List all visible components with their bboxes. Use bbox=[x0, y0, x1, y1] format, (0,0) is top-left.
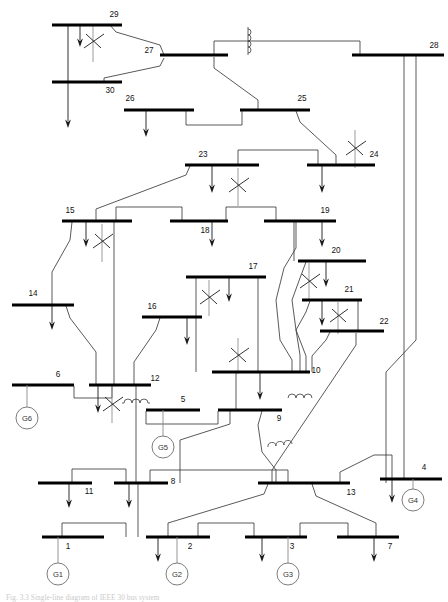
line-25-24 bbox=[296, 111, 336, 165]
transmission-lines bbox=[52, 25, 416, 537]
line-15-18 bbox=[116, 207, 182, 221]
load-arrow-bus-18 bbox=[209, 221, 215, 247]
transformer-29-27 bbox=[84, 26, 104, 62]
load-arrow-bus-29 bbox=[77, 25, 83, 47]
generator-label-G2: G2 bbox=[172, 570, 182, 579]
line-29-27 bbox=[110, 25, 164, 55]
line-15-14 bbox=[52, 222, 72, 305]
bus-label-27: 27 bbox=[144, 46, 154, 55]
transformer-21 bbox=[330, 302, 348, 334]
transformer-23 bbox=[229, 168, 249, 206]
generator-label-G5: G5 bbox=[158, 443, 168, 452]
line-18-19 bbox=[226, 207, 276, 221]
transformer-12 bbox=[103, 387, 123, 423]
transformer-20 bbox=[300, 263, 320, 300]
load-arrow-bus-14 bbox=[49, 305, 55, 330]
generators: G1G2G3G4G5G6 bbox=[16, 385, 424, 585]
bus-label-6: 6 bbox=[56, 370, 61, 379]
load-arrow-bus-30 bbox=[65, 25, 71, 128]
bus-label-29: 29 bbox=[109, 10, 119, 19]
line-14-12 bbox=[66, 306, 96, 385]
line-27-25 bbox=[214, 57, 258, 110]
bus-label-4: 4 bbox=[422, 463, 427, 472]
bus-label-14: 14 bbox=[28, 289, 38, 298]
load-arrow-bus-3 bbox=[259, 537, 265, 562]
bus-label-12: 12 bbox=[150, 374, 160, 383]
transformer-15 bbox=[93, 224, 113, 262]
reactor-10-coil-icon bbox=[288, 394, 312, 398]
bus-label-21: 21 bbox=[344, 285, 354, 294]
bus-label-15: 15 bbox=[65, 206, 75, 215]
load-arrow-bus-17 bbox=[226, 277, 232, 302]
bus-label-3: 3 bbox=[290, 542, 295, 551]
buses bbox=[12, 25, 444, 537]
generator-label-G6: G6 bbox=[22, 414, 32, 423]
bus-label-2: 2 bbox=[188, 542, 193, 551]
load-arrow-bus-11 bbox=[66, 483, 72, 508]
generator-G6[interactable]: G6 bbox=[16, 385, 38, 429]
load-arrow-bus-16 bbox=[184, 317, 190, 345]
figure-caption: Fig. 3.3 Single-line diagram of IEEE 30 … bbox=[6, 594, 160, 602]
line-11-8 bbox=[72, 469, 126, 483]
bus-label-11: 11 bbox=[85, 487, 94, 496]
line-2-3 bbox=[198, 523, 254, 537]
load-arrow-bus-15 bbox=[83, 221, 89, 247]
line-5-7 bbox=[146, 411, 218, 424]
load-arrow-bus-7 bbox=[371, 537, 377, 562]
bus-label-23: 23 bbox=[198, 150, 208, 159]
generator-label-G3: G3 bbox=[283, 570, 293, 579]
transformer-17 bbox=[200, 280, 220, 316]
load-arrow-bus-24 bbox=[319, 165, 325, 193]
bus-label-10: 10 bbox=[311, 366, 321, 375]
line-26-25 bbox=[186, 110, 242, 125]
line-23-24 bbox=[238, 150, 318, 165]
load-arrow-bus-10 bbox=[257, 372, 263, 400]
bus-label-30: 30 bbox=[105, 86, 115, 95]
transformers bbox=[84, 26, 366, 423]
generator-label-G1: G1 bbox=[53, 570, 63, 579]
line-27-28 bbox=[214, 41, 360, 55]
generator-G2[interactable]: G2 bbox=[166, 537, 188, 585]
bus-label-7: 7 bbox=[388, 542, 393, 551]
load-arrow-bus-19 bbox=[319, 221, 325, 247]
line-13-2 bbox=[168, 484, 268, 537]
line-6-12 bbox=[74, 386, 112, 398]
bus-label-16: 16 bbox=[147, 302, 157, 311]
bus-label-8: 8 bbox=[171, 477, 176, 486]
load-arrow-bus-8 bbox=[126, 483, 132, 508]
single-line-diagram: 1234567891011121314151617181920212223242… bbox=[0, 0, 448, 602]
load-arrow-bus-21 bbox=[319, 300, 325, 326]
line-23-15 bbox=[96, 166, 190, 221]
bus-label-22: 22 bbox=[379, 317, 389, 326]
line-22-13 bbox=[272, 333, 356, 483]
load-arrow-bus-26 bbox=[143, 110, 149, 137]
line-3-7 bbox=[300, 523, 348, 537]
generator-G5[interactable]: G5 bbox=[152, 410, 174, 458]
bus-label-5: 5 bbox=[181, 395, 186, 404]
line-27-30 bbox=[104, 58, 164, 82]
bus-label-13: 13 bbox=[346, 488, 356, 497]
diagram-canvas: 1234567891011121314151617181920212223242… bbox=[0, 0, 448, 602]
load-arrow-bus-12 bbox=[95, 385, 101, 413]
load-arrow-bus-20 bbox=[323, 261, 329, 287]
bus-label-28: 28 bbox=[429, 41, 439, 50]
transformer-24 bbox=[346, 130, 366, 168]
bus-label-17: 17 bbox=[248, 262, 258, 271]
bus-label-26: 26 bbox=[125, 94, 135, 103]
generator-G4[interactable]: G4 bbox=[402, 479, 424, 511]
line-13-7 bbox=[312, 484, 376, 537]
load-arrow-bus-2 bbox=[155, 537, 161, 562]
bus-label-18: 18 bbox=[200, 226, 210, 235]
line-11-1 bbox=[62, 523, 126, 537]
bus-label-9: 9 bbox=[277, 414, 282, 423]
bus-label-1: 1 bbox=[66, 542, 71, 551]
bus-label-20: 20 bbox=[331, 246, 341, 255]
bus-label-24: 24 bbox=[369, 150, 379, 159]
bus-label-25: 25 bbox=[297, 94, 307, 103]
line-28-down-b bbox=[386, 56, 416, 483]
line-9-11 bbox=[180, 411, 230, 483]
line-9-13 bbox=[258, 411, 276, 483]
transformer-10 bbox=[229, 338, 249, 374]
bus-label-19: 19 bbox=[320, 206, 330, 215]
generator-G3[interactable]: G3 bbox=[277, 537, 299, 585]
